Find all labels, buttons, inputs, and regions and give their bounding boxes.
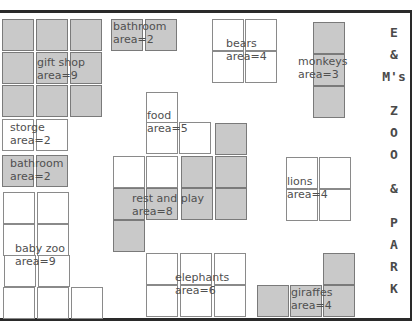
area-cell: [146, 156, 178, 188]
area-cell: [257, 285, 289, 317]
area-label: elephantsarea=6: [175, 271, 229, 297]
title-letter: &: [378, 178, 410, 200]
area-label: bathroomarea=2: [113, 20, 166, 46]
area-cell: [3, 192, 35, 224]
area-size: area=9: [15, 255, 65, 268]
area-cell: [313, 22, 345, 54]
area-cell: [70, 85, 102, 117]
title-letter: A: [378, 234, 410, 256]
area-cell: [146, 253, 178, 285]
area-cell: [215, 156, 247, 188]
area-cell: [113, 220, 145, 252]
area-cell: [181, 156, 213, 188]
area-size: area=8: [132, 205, 204, 218]
area-cell: [215, 188, 247, 220]
area-cell: [113, 156, 145, 188]
area-label: lionsarea=4: [287, 175, 328, 201]
area-name: elephants: [175, 271, 229, 284]
area-name: food: [147, 109, 188, 122]
area-cell: [36, 19, 68, 51]
area-name: rest and play: [132, 192, 204, 205]
area-size: area=4: [287, 188, 328, 201]
area-name: giraffes: [291, 286, 332, 299]
title-letter: [378, 166, 410, 178]
area-size: area=4: [226, 50, 267, 63]
area-name: bathroom: [10, 157, 63, 170]
zoo-title: E&M'sZOO&PARK: [378, 22, 410, 300]
area-size: area=9: [37, 69, 85, 82]
title-letter: O: [378, 122, 410, 144]
area-label: bearsarea=4: [226, 37, 267, 63]
area-label: storgearea=2: [10, 121, 51, 147]
area-name: bathroom: [113, 20, 166, 33]
area-name: gift shop: [37, 56, 85, 69]
area-label: gift shoparea=9: [37, 56, 85, 82]
area-name: storge: [10, 121, 51, 134]
area-label: monkeysarea=3: [298, 55, 347, 81]
area-cell: [70, 19, 102, 51]
area-size: area=4: [291, 299, 332, 312]
area-size: area=2: [113, 33, 166, 46]
area-label: giraffesarea=4: [291, 286, 332, 312]
title-letter: Z: [378, 100, 410, 122]
area-label: baby zooarea=9: [15, 242, 65, 268]
area-name: bears: [226, 37, 267, 50]
area-name: monkeys: [298, 55, 347, 68]
area-label: bathroomarea=2: [10, 157, 63, 183]
area-cell: [36, 85, 68, 117]
area-cell: [37, 192, 69, 224]
title-letter: E: [378, 22, 410, 44]
title-letter: R: [378, 256, 410, 278]
area-cell: [215, 123, 247, 155]
title-letter: P: [378, 212, 410, 234]
area-cell: [313, 86, 345, 118]
area-size: area=5: [147, 122, 188, 135]
title-letter: M's: [378, 66, 410, 88]
title-letter: O: [378, 144, 410, 166]
area-cell: [37, 287, 69, 319]
title-letter: [378, 200, 410, 212]
area-label: rest and playarea=8: [132, 192, 204, 218]
area-cell: [2, 19, 34, 51]
area-size: area=6: [175, 284, 229, 297]
area-cell: [71, 287, 103, 319]
area-size: area=3: [298, 68, 347, 81]
area-name: lions: [287, 175, 328, 188]
area-size: area=2: [10, 134, 51, 147]
title-letter: [378, 88, 410, 100]
title-letter: K: [378, 278, 410, 300]
area-cell: [2, 85, 34, 117]
area-name: baby zoo: [15, 242, 65, 255]
title-letter: &: [378, 44, 410, 66]
area-size: area=2: [10, 170, 63, 183]
area-cell: [2, 52, 34, 84]
area-label: foodarea=5: [147, 109, 188, 135]
area-cell: [323, 253, 355, 285]
area-cell: [3, 287, 35, 319]
area-cell: [146, 285, 178, 317]
